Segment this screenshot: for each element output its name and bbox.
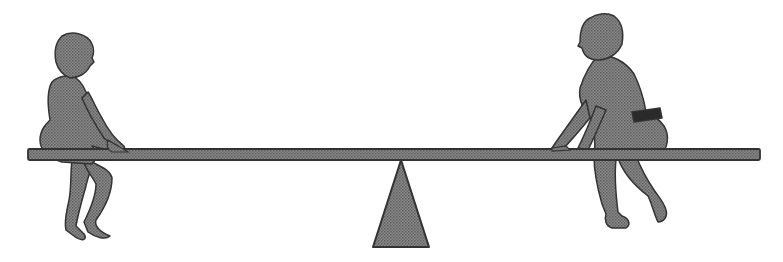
child-left: [40, 33, 126, 239]
seesaw-plank: [28, 149, 760, 160]
fulcrum-triangle: [373, 160, 429, 247]
child-right: [552, 14, 667, 228]
